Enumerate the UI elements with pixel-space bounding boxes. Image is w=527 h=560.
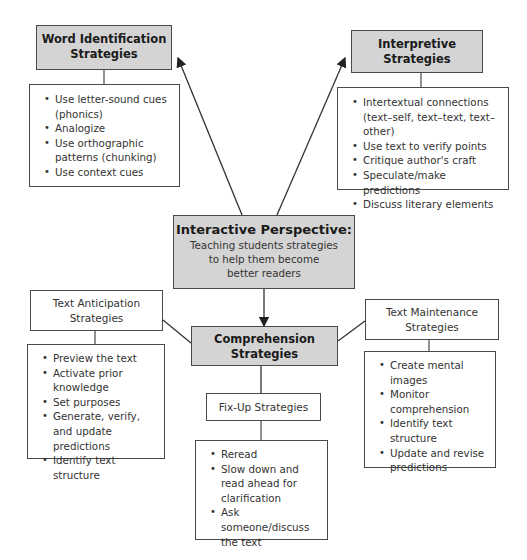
text-maintenance-list: Create mental images Monitor comprehensi… (375, 358, 491, 475)
list-item: Preview the text (53, 351, 160, 366)
interpretive-list: Intertextual connections (text–self, tex… (348, 95, 504, 212)
list-item: Discuss literary elements (363, 197, 504, 212)
text-anticipation-title-line2: Strategies (31, 311, 162, 326)
list-item: Identify text structure (53, 453, 160, 482)
interpretive-title-line1: Interpretive (352, 37, 482, 52)
interactive-perspective-subtitle-line1: Teaching students strategies (174, 238, 354, 252)
comprehension-title-line1: Comprehension (192, 332, 337, 347)
list-item: Reread (221, 447, 323, 462)
text-maintenance-title-box: Text Maintenance Strategies (365, 299, 499, 340)
fix-up-title: Fix-Up Strategies (207, 400, 320, 415)
word-identification-title-line2: Strategies (37, 47, 171, 62)
text-maintenance-title-line2: Strategies (366, 320, 498, 335)
list-item: Slow down and read ahead for clarificati… (221, 462, 323, 506)
fix-up-list-box: Reread Slow down and read ahead for clar… (195, 440, 328, 540)
word-identification-list-box: Use letter-sound cues (phonics) Analogiz… (29, 84, 180, 187)
list-item: Use text to verify points (363, 139, 504, 154)
interpretive-title-box: Interpretive Strategies (351, 30, 483, 73)
text-anticipation-list-box: Preview the text Activate prior knowledg… (27, 344, 165, 459)
text-maintenance-title-line1: Text Maintenance (366, 305, 498, 320)
text-anticipation-title-box: Text Anticipation Strategies (30, 290, 163, 331)
text-anticipation-title-line1: Text Anticipation (31, 296, 162, 311)
interpretive-title-line2: Strategies (352, 52, 482, 67)
word-identification-title-box: Word Identification Strategies (36, 25, 172, 70)
list-item: Analogize (55, 121, 173, 136)
word-identification-title-line1: Word Identification (37, 32, 171, 47)
list-item: Update and revise predictions (390, 446, 491, 475)
list-item: Use orthographic patterns (chunking) (55, 136, 173, 165)
list-item: Monitor comprehension (390, 387, 491, 416)
interactive-perspective-subtitle-line3: better readers (174, 266, 354, 280)
list-item: Set purposes (53, 395, 160, 410)
fix-up-title-box: Fix-Up Strategies (206, 393, 321, 421)
list-item: Activate prior knowledge (53, 366, 160, 395)
list-item: Create mental images (390, 358, 491, 387)
comprehension-title-line2: Strategies (192, 347, 337, 362)
interpretive-list-box: Intertextual connections (text–self, tex… (337, 87, 509, 190)
arrow-to-interpretive (277, 58, 345, 215)
text-maintenance-list-box: Create mental images Monitor comprehensi… (364, 351, 496, 468)
list-item: Critique author's craft (363, 153, 504, 168)
list-item: Use letter-sound cues (phonics) (55, 92, 173, 121)
list-item: Use context cues (55, 165, 173, 180)
list-item: Intertextual connections (text–self, tex… (363, 95, 504, 139)
fix-up-list: Reread Slow down and read ahead for clar… (206, 447, 323, 549)
comprehension-title-box: Comprehension Strategies (191, 326, 338, 366)
list-item: Generate, verify, and update predictions (53, 409, 160, 453)
word-identification-list: Use letter-sound cues (phonics) Analogiz… (40, 92, 173, 180)
interactive-perspective-title: Interactive Perspective: (174, 222, 354, 238)
interactive-perspective-box: Interactive Perspective: Teaching studen… (173, 215, 355, 289)
list-item: Ask someone/discuss the text (221, 505, 323, 549)
arrow-to-word-identification (178, 58, 242, 215)
list-item: Speculate/make predictions (363, 168, 504, 197)
interactive-perspective-subtitle-line2: to help them become (174, 252, 354, 266)
text-anticipation-list: Preview the text Activate prior knowledg… (38, 351, 160, 482)
list-item: Identify text structure (390, 416, 491, 445)
